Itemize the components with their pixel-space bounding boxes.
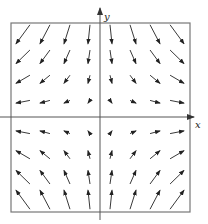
field-arrow [110, 171, 112, 185]
x-axis-label: x [195, 119, 201, 130]
field-arrow [64, 131, 70, 134]
field-arrow [150, 151, 160, 159]
field-arrow [130, 171, 136, 185]
field-arrow [40, 75, 50, 83]
field-arrow [110, 100, 112, 103]
field-arrow [150, 25, 160, 44]
field-arrow [64, 171, 70, 185]
field-arrow [170, 131, 184, 134]
field-arrow [150, 190, 160, 209]
field-arrow [64, 75, 70, 83]
field-arrow [130, 151, 136, 159]
field-arrow [170, 25, 184, 44]
field-arrow [16, 151, 30, 159]
field-arrow [130, 25, 136, 44]
field-arrow [88, 131, 90, 134]
field-arrow [170, 50, 184, 64]
field-arrow [88, 100, 90, 103]
field-arrow [130, 100, 136, 103]
field-arrow [170, 100, 184, 103]
field-arrow [150, 100, 160, 103]
field-arrow [170, 75, 184, 83]
field-arrow [150, 75, 160, 83]
field-arrow [40, 171, 50, 185]
field-arrow [40, 25, 50, 44]
field-arrow [64, 190, 70, 209]
field-arrow [40, 131, 50, 134]
field-arrow [130, 75, 136, 83]
field-arrow [150, 131, 160, 134]
field-arrow [170, 151, 184, 159]
field-arrow [16, 190, 30, 209]
field-arrow [110, 25, 112, 44]
field-arrow [88, 25, 90, 44]
field-arrow [64, 25, 70, 44]
field-arrow [110, 131, 112, 134]
field-arrow [150, 50, 160, 64]
field-arrow [88, 171, 90, 185]
field-arrow [16, 171, 30, 185]
field-arrow [150, 171, 160, 185]
field-arrow [16, 100, 30, 103]
field-arrow [130, 50, 136, 64]
field-arrow [130, 131, 136, 134]
vector-field-figure: x y [0, 0, 208, 224]
field-arrow [40, 190, 50, 209]
field-arrow [16, 131, 30, 134]
field-arrow [88, 75, 90, 83]
field-arrow [110, 50, 112, 64]
field-arrow [64, 151, 70, 159]
field-arrow [88, 50, 90, 64]
field-arrow [110, 75, 112, 83]
field-arrow [88, 151, 90, 159]
field-arrow [130, 190, 136, 209]
field-arrow [40, 151, 50, 159]
field-arrow [110, 151, 112, 159]
field-arrow [64, 50, 70, 64]
field-arrow [40, 50, 50, 64]
field-arrow [110, 190, 112, 209]
field-arrow [16, 75, 30, 83]
field-arrow [88, 190, 90, 209]
y-axis-label: y [103, 11, 110, 22]
field-arrow [16, 50, 30, 64]
field-arrow [64, 100, 70, 103]
field-arrow [170, 190, 184, 209]
field-arrow [40, 100, 50, 103]
field-arrow [170, 171, 184, 185]
field-arrow [16, 25, 30, 44]
